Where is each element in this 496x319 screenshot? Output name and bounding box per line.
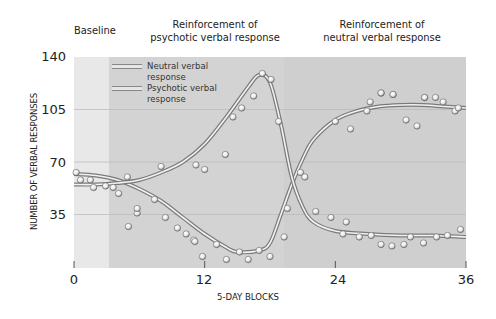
data-point: [245, 256, 251, 262]
data-point: [281, 234, 287, 240]
data-point: [230, 114, 236, 120]
data-point: [389, 243, 395, 249]
data-point: [378, 90, 384, 96]
data-point: [238, 105, 244, 111]
data-point: [401, 241, 407, 247]
data-point: [268, 76, 274, 82]
data-point: [110, 184, 116, 190]
data-point: [213, 241, 219, 247]
phase-background-0: [74, 57, 109, 268]
data-point: [124, 174, 130, 180]
data-point: [284, 205, 290, 211]
data-point: [356, 234, 362, 240]
data-point: [223, 256, 229, 262]
data-point: [174, 225, 180, 231]
data-point: [236, 249, 242, 255]
data-point: [332, 118, 338, 124]
legend-label-psychotic: Psychotic verbal response: [147, 82, 217, 104]
x-tick-36: 36: [451, 272, 481, 287]
data-point: [192, 238, 198, 244]
data-point: [276, 118, 282, 124]
data-point: [134, 205, 140, 211]
legend-item-neutral: Neutral verbal response: [112, 60, 217, 82]
data-point: [455, 105, 461, 111]
y-tick-140: 140: [26, 49, 66, 64]
data-point: [256, 247, 262, 253]
data-point: [313, 208, 319, 214]
data-point: [193, 162, 199, 168]
x-axis-label: 5-DAY BLOCKS: [0, 291, 496, 302]
data-point: [73, 169, 79, 175]
data-point: [162, 214, 168, 220]
data-point: [407, 234, 413, 240]
data-point: [158, 163, 164, 169]
legend-label-neutral-line2: response: [147, 71, 186, 82]
data-point: [367, 99, 373, 105]
data-point: [77, 177, 83, 183]
data-point: [90, 184, 96, 190]
data-point: [444, 232, 450, 238]
data-point: [302, 174, 308, 180]
x-tick-24: 24: [323, 272, 353, 287]
data-point: [199, 253, 205, 259]
data-point: [347, 126, 353, 132]
legend-label-psychotic-line1: Psychotic verbal: [147, 82, 217, 93]
data-point: [420, 240, 426, 246]
data-point: [328, 214, 334, 220]
data-point: [201, 166, 207, 172]
legend-item-psychotic: Psychotic verbal response: [112, 82, 217, 104]
legend-swatch-psychotic: [112, 86, 142, 91]
data-point: [432, 94, 438, 100]
legend: Neutral verbal response Psychotic verbal…: [112, 60, 217, 104]
legend-label-neutral-line1: Neutral verbal: [147, 60, 208, 71]
data-point: [414, 123, 420, 129]
data-point: [151, 196, 157, 202]
data-point: [87, 177, 93, 183]
data-point: [259, 70, 265, 76]
y-axis-label: NUMBER OF VERBAL RESPONSES: [28, 67, 39, 257]
x-tick-12: 12: [189, 272, 219, 287]
data-point: [368, 232, 374, 238]
data-point: [267, 253, 273, 259]
data-point: [125, 223, 131, 229]
data-point: [222, 151, 228, 157]
data-point: [390, 91, 396, 97]
data-point: [433, 234, 439, 240]
data-point: [340, 231, 346, 237]
legend-swatch-neutral: [112, 64, 142, 69]
x-tick-0: 0: [59, 272, 89, 287]
data-point: [115, 190, 121, 196]
data-point: [343, 219, 349, 225]
legend-label-neutral: Neutral verbal response: [147, 60, 208, 82]
data-point: [378, 241, 384, 247]
legend-label-psychotic-line2: response: [147, 93, 186, 104]
data-point: [457, 226, 463, 232]
data-point: [183, 231, 189, 237]
data-point: [440, 99, 446, 105]
data-point: [102, 183, 108, 189]
data-point: [250, 93, 256, 99]
data-point: [403, 117, 409, 123]
data-point: [421, 94, 427, 100]
data-point: [364, 108, 370, 114]
